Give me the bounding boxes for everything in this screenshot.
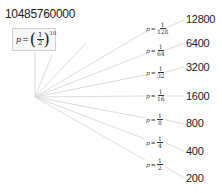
left-paren: ( (30, 32, 36, 48)
branch-label-5: p= 18 (146, 113, 163, 126)
branch-value-1: 12800 (186, 13, 215, 25)
equals-sign: = (22, 35, 29, 44)
branch-label-6: p= 14 (146, 136, 163, 149)
branch-value-4: 1600 (186, 90, 209, 102)
branch-value-6: 400 (186, 145, 203, 157)
branch-label-7: p= 12 (146, 158, 163, 171)
branch-value-3: 3200 (186, 61, 209, 73)
root-value: 10485760000 (5, 7, 75, 21)
branch-value-2: 6400 (186, 37, 209, 49)
branch-label-2: p= 164 (146, 44, 165, 57)
branch-value-5: 800 (186, 117, 203, 129)
root-probability-box: p = ( 1 2 ) 10 (12, 28, 56, 51)
branch-label-4: p= 116 (146, 89, 165, 102)
exponent: 10 (50, 30, 56, 36)
prob-var: p (16, 35, 21, 44)
branch-value-7: 200 (186, 172, 203, 184)
branch-label-1: p= 1128 (146, 22, 168, 35)
branch-label-3: p= 132 (146, 66, 165, 79)
